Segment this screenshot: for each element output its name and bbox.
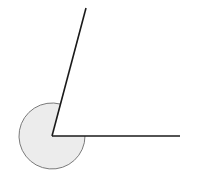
upper-ray (52, 8, 86, 136)
reflex-angle-diagram (0, 0, 207, 190)
